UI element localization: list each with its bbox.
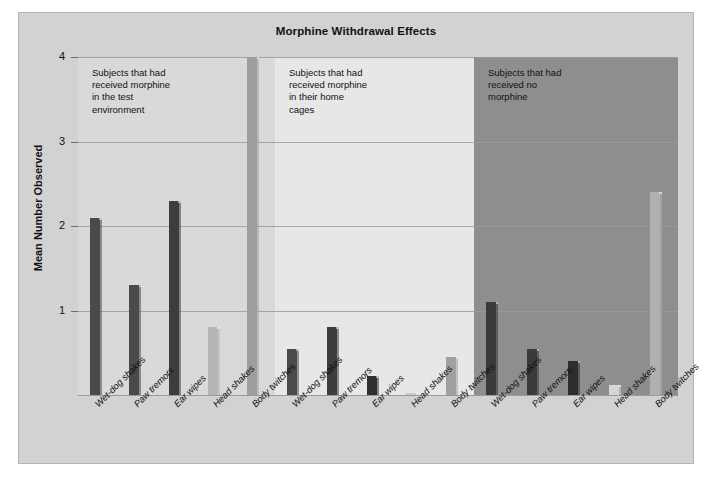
bar-face bbox=[568, 361, 578, 395]
bar-side bbox=[217, 327, 220, 395]
figure-canvas: Morphine Withdrawal Effects Mean Number … bbox=[0, 0, 712, 486]
bar-top-highlight bbox=[336, 327, 339, 329]
bar bbox=[129, 285, 141, 395]
panel-note-test-environment: Subjects that had received morphine in t… bbox=[92, 67, 170, 116]
bar-top-highlight bbox=[537, 349, 540, 351]
bar bbox=[208, 327, 220, 395]
bar-face bbox=[208, 327, 218, 395]
bar-side bbox=[496, 302, 499, 395]
y-tick-mark-2 bbox=[71, 226, 78, 227]
y-tick-label-4: 4 bbox=[39, 50, 65, 62]
bar-top-highlight bbox=[257, 57, 260, 59]
y-tick-label-3: 3 bbox=[39, 135, 65, 147]
bar-side bbox=[578, 361, 581, 395]
bar-top-highlight bbox=[99, 218, 102, 220]
bar-top-highlight bbox=[178, 201, 181, 203]
y-tick-mark-3 bbox=[71, 142, 78, 143]
bar bbox=[486, 302, 498, 395]
bar-top-highlight bbox=[139, 285, 142, 287]
bar-top-highlight bbox=[217, 327, 220, 329]
y-tick-label-2: 2 bbox=[39, 219, 65, 231]
bar-side bbox=[659, 192, 662, 395]
bar-face bbox=[486, 302, 496, 395]
plot-area: Subjects that had received morphine in t… bbox=[78, 57, 678, 395]
bar-top-highlight bbox=[578, 361, 581, 363]
bar-side bbox=[139, 285, 142, 395]
bar-face bbox=[247, 57, 257, 395]
bar-face bbox=[90, 218, 100, 395]
bar-side bbox=[296, 349, 299, 395]
bar-top-highlight bbox=[659, 192, 662, 194]
bar-top-highlight bbox=[296, 349, 299, 351]
panel-note-home-cages: Subjects that had received morphine in t… bbox=[289, 67, 367, 116]
gridline-3 bbox=[78, 142, 678, 143]
bar-side bbox=[257, 57, 260, 395]
bar-top-highlight bbox=[618, 385, 621, 387]
bar-face bbox=[609, 385, 619, 395]
bar-top-highlight bbox=[376, 376, 379, 378]
y-tick-label-1: 1 bbox=[39, 304, 65, 316]
bar bbox=[367, 376, 379, 395]
gridline-4 bbox=[78, 57, 678, 58]
y-tick-mark-1 bbox=[71, 311, 78, 312]
bar-side bbox=[178, 201, 181, 395]
bar-top-highlight bbox=[496, 302, 499, 304]
y-tick-mark-4 bbox=[71, 57, 78, 58]
bar-side bbox=[99, 218, 102, 395]
bar bbox=[90, 218, 102, 395]
bar bbox=[247, 57, 259, 395]
chart-title: Morphine Withdrawal Effects bbox=[0, 25, 712, 37]
bar-face bbox=[367, 376, 377, 395]
bar bbox=[568, 361, 580, 395]
panel-note-no-morphine: Subjects that had received no morphine bbox=[488, 67, 561, 104]
bar-side bbox=[456, 357, 459, 395]
bar-top-highlight bbox=[456, 357, 459, 359]
x-axis-labels: Wet-dog shakesPaw tremorsEar wipesHead s… bbox=[78, 398, 678, 478]
